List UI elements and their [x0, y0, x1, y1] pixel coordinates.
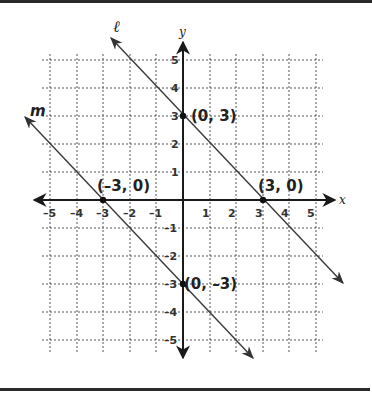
coordinate-plane: x y –5 –4 –3 –2 –1 1 2 3 4 5 5 4 3 2 1 –…: [0, 0, 372, 394]
svg-text:–3: –3: [164, 278, 177, 291]
x-axis-label: x: [339, 193, 346, 207]
svg-text:2: 2: [228, 207, 236, 220]
svg-text:–5: –5: [43, 207, 56, 220]
svg-text:–1: –1: [164, 222, 177, 235]
bottom-border-rule: [0, 388, 370, 391]
svg-text:–4: –4: [164, 306, 178, 319]
svg-text:–2: –2: [164, 250, 177, 263]
svg-text:–2: –2: [123, 207, 136, 220]
point-label-0-3: (0, 3): [191, 107, 237, 125]
point-0-3: [180, 113, 186, 119]
svg-text:3: 3: [255, 207, 263, 220]
point-label-neg3-0: (–3, 0): [97, 177, 150, 195]
svg-text:–1: –1: [149, 207, 162, 220]
line-m: [25, 117, 253, 358]
svg-text:5: 5: [171, 54, 179, 67]
x-tick-labels: –5 –4 –3 –2 –1 1 2 3 4 5: [43, 207, 315, 220]
point-neg3-0: [100, 197, 106, 203]
point-label-0-neg3: (0, –3): [184, 275, 237, 293]
svg-text:3: 3: [171, 110, 179, 123]
y-axis-label: y: [178, 25, 186, 39]
svg-text:1: 1: [202, 207, 210, 220]
line-l: [111, 38, 343, 283]
point-3-0: [260, 197, 266, 203]
svg-text:–3: –3: [96, 207, 109, 220]
svg-text:–5: –5: [164, 334, 177, 347]
svg-text:5: 5: [307, 207, 315, 220]
svg-text:2: 2: [171, 138, 179, 151]
svg-text:1: 1: [171, 166, 179, 179]
svg-text:–4: –4: [70, 207, 84, 220]
line-l-label: ℓ: [113, 17, 120, 36]
line-m-label: m: [30, 102, 46, 120]
point-label-3-0: (3, 0): [258, 177, 304, 195]
svg-text:4: 4: [171, 82, 179, 95]
